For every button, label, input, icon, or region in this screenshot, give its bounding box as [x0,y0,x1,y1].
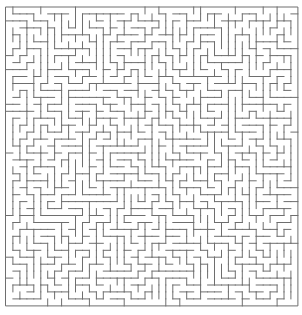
maze-walls [6,7,298,306]
maze-grid [0,0,302,315]
